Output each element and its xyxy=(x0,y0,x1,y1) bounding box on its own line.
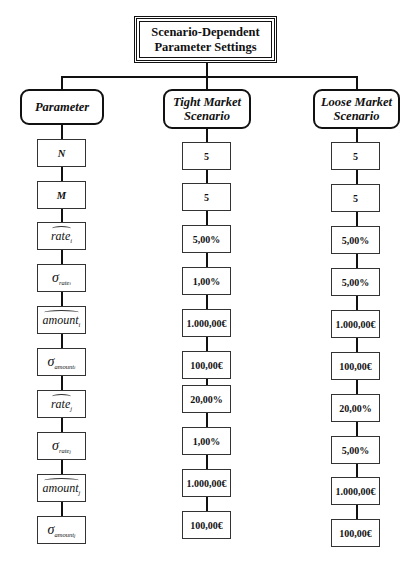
param-sigma-rate-i: σratei xyxy=(37,264,86,292)
header-loose-line-1: Loose Market xyxy=(321,95,392,109)
header-loose-line-2: Scenario xyxy=(321,109,392,123)
param-sigma-amount-i: σamounti xyxy=(37,348,86,376)
tight-value-amount-j: 1.000,00€ xyxy=(182,469,231,497)
param-symbol: σratej xyxy=(52,438,71,454)
param-symbol: σamountj xyxy=(48,522,76,538)
param-sigma-rate-j: σratej xyxy=(37,432,86,460)
param-symbol: amountj xyxy=(43,481,81,496)
connector-tight-header xyxy=(206,76,208,90)
param-N: N xyxy=(37,139,86,167)
header-loose-market: Loose Market Scenario xyxy=(313,89,400,129)
param-amount-i-hat: amounti xyxy=(37,306,86,334)
param-amount-j-hat: amountj xyxy=(37,474,86,502)
connector-horizontal xyxy=(61,76,358,78)
header-parameter-label: Parameter xyxy=(35,100,89,114)
header-tight-line-1: Tight Market xyxy=(173,95,241,109)
param-symbol: σratei xyxy=(52,270,71,286)
loose-value-sigma-rate-j: 5,00% xyxy=(331,436,380,464)
tight-value-sigma-rate-i: 1,00% xyxy=(182,267,231,295)
param-M: M xyxy=(37,181,86,209)
loose-value-amount-i: 1.000,00€ xyxy=(331,310,380,338)
loose-value-rate-j: 20,00% xyxy=(331,394,380,422)
loose-value-sigma-amount-j: 100,00€ xyxy=(331,519,380,547)
connector-loose-header xyxy=(356,76,358,90)
param-symbol: ratei xyxy=(51,229,72,244)
loose-value-amount-j: 1.000,00€ xyxy=(331,477,380,505)
param-symbol: M xyxy=(57,190,66,201)
connector-title-down xyxy=(206,63,208,77)
param-symbol: ratej xyxy=(51,397,72,412)
tight-value-amount-i: 1.000,00€ xyxy=(182,309,231,337)
tight-value-M: 5 xyxy=(182,183,231,211)
header-tight-market: Tight Market Scenario xyxy=(163,89,251,129)
param-symbol: N xyxy=(58,148,66,159)
diagram-title: Scenario-Dependent Parameter Settings xyxy=(134,16,277,63)
tight-value-N: 5 xyxy=(182,142,231,170)
tight-value-rate-i: 5,00% xyxy=(182,225,231,253)
header-parameter: Parameter xyxy=(20,89,104,125)
header-tight-line-2: Scenario xyxy=(173,109,241,123)
loose-value-M: 5 xyxy=(331,184,380,212)
tight-value-sigma-amount-i: 100,00€ xyxy=(182,351,231,379)
param-rate-i-hat: ratei xyxy=(37,222,86,250)
loose-value-N: 5 xyxy=(331,142,380,170)
param-sigma-amount-j: σamountj xyxy=(37,516,86,544)
loose-value-sigma-rate-i: 5,00% xyxy=(331,268,380,296)
tight-value-sigma-amount-j: 100,00€ xyxy=(182,511,231,539)
tight-value-rate-j: 20,00% xyxy=(182,385,231,413)
loose-value-rate-i: 5,00% xyxy=(331,226,380,254)
connector-param-header xyxy=(61,76,63,90)
param-symbol: σamounti xyxy=(48,354,76,370)
loose-value-sigma-amount-i: 100,00€ xyxy=(331,352,380,380)
tight-value-sigma-rate-j: 1,00% xyxy=(182,427,231,455)
param-rate-j-hat: ratej xyxy=(37,390,86,418)
title-line-2: Parameter Settings xyxy=(151,40,259,55)
param-symbol: amounti xyxy=(43,313,81,328)
title-line-1: Scenario-Dependent xyxy=(151,25,259,40)
